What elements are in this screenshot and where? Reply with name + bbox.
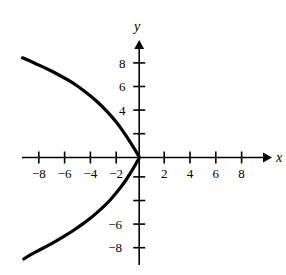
x-tick-label-minus6: −6 <box>57 167 73 180</box>
x-tick-label-plus2: 2 <box>159 167 169 180</box>
x-axis-arrowhead <box>263 153 272 163</box>
coordinate-plane-svg <box>0 0 286 275</box>
x-tick-label-minus8: −8 <box>31 167 47 180</box>
y-tick-label-minus6: −6 <box>106 218 124 231</box>
x-tick-label-minus2: −2 <box>108 167 124 180</box>
y-tick-label-minus8: −8 <box>106 241 124 254</box>
x-tick-label-minus4: −4 <box>82 167 98 180</box>
y-axis-label: y <box>134 20 140 34</box>
y-tick-label-plus6: 6 <box>116 80 128 93</box>
x-tick-label-plus6: 6 <box>211 167 221 180</box>
x-tick-label-plus4: 4 <box>185 167 195 180</box>
y-axis-arrowhead <box>134 40 144 49</box>
y-tick-label-plus4: 4 <box>116 104 128 117</box>
y-tick-label-plus8: 8 <box>116 57 128 70</box>
x-axis-label: x <box>276 151 282 165</box>
x-axis <box>22 152 272 164</box>
x-tick-label-plus8: 8 <box>237 167 247 180</box>
graph-figure: −8 −6 −4 −2 2 4 6 8 8 6 4 −6 −8 x y <box>0 0 286 275</box>
